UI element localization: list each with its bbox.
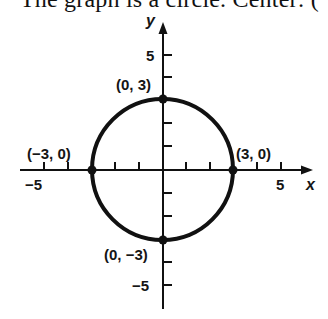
point-label-right: (3, 0): [236, 145, 271, 162]
circle-graph: y x 5 −5 −5 5 (0, 3) (3, 0) (−3, 0) (0, …: [0, 0, 328, 319]
point-label-left: (−3, 0): [27, 145, 71, 162]
y-axis-arrow-icon: [159, 22, 168, 34]
x-axis-label: x: [305, 176, 316, 193]
point-left: [88, 166, 97, 175]
y-tick-label-neg5: −5: [132, 277, 149, 294]
x-tick-label-neg5: −5: [25, 176, 42, 193]
point-label-top: (0, 3): [116, 76, 151, 93]
point-bottom: [159, 236, 168, 245]
point-top: [159, 95, 168, 104]
y-axis-label: y: [145, 12, 156, 29]
x-axis-arrow-icon: [301, 166, 313, 175]
point-label-bottom: (0, −3): [104, 246, 148, 263]
x-tick-label-5: 5: [276, 176, 284, 193]
point-right: [229, 166, 238, 175]
y-tick-label-5: 5: [146, 47, 154, 64]
